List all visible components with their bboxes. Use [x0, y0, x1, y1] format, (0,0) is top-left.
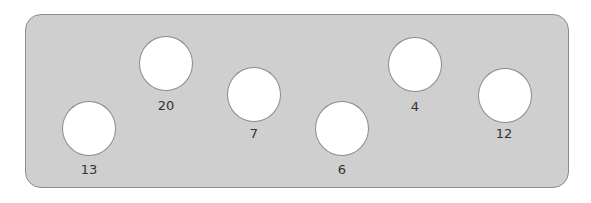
- hole-label-0: 13: [69, 163, 109, 177]
- hole-circle-2: [227, 67, 281, 122]
- hole-circle-5: [478, 68, 532, 123]
- hole-circle-0: [62, 101, 116, 156]
- hole-label-2: 7: [234, 127, 274, 141]
- hole-circle-4: [388, 37, 442, 92]
- hole-label-5: 12: [484, 127, 524, 141]
- hole-circle-1: [139, 36, 193, 91]
- hole-label-3: 6: [322, 163, 362, 177]
- hole-label-4: 4: [395, 100, 435, 114]
- diagram-stage: 13 20 7 6 4 12: [0, 0, 591, 203]
- hole-label-1: 20: [146, 99, 186, 113]
- hole-circle-3: [315, 101, 369, 156]
